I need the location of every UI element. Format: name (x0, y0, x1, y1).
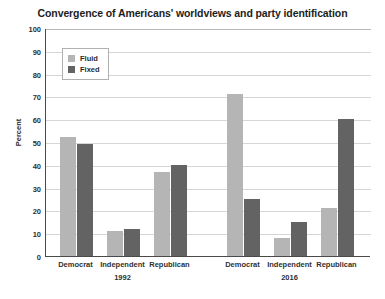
bar-fluid-4 (274, 238, 290, 256)
gridline (46, 29, 371, 30)
y-axis-tick-label: 100 (5, 25, 41, 34)
bar-fixed-2 (171, 165, 187, 256)
y-axis-tick-labels: 0102030405060708090100 (0, 29, 41, 257)
x-axis-category-label: Republican (142, 260, 197, 269)
legend-swatch-fluid (68, 55, 75, 62)
gridline (46, 143, 371, 144)
bar-fluid-1 (107, 231, 123, 256)
y-axis-tick-label: 30 (5, 184, 41, 193)
legend-item: Fixed (68, 64, 100, 75)
bar-fluid-0 (60, 137, 76, 256)
y-axis-tick-label: 60 (5, 116, 41, 125)
y-axis-tick-label: 10 (5, 230, 41, 239)
bar-fixed-5 (338, 119, 354, 256)
legend-item: Fluid (68, 53, 100, 64)
gridline (46, 189, 371, 190)
chart-legend: FluidFixed (62, 48, 109, 80)
y-axis-tick-label: 50 (5, 139, 41, 148)
bar-fluid-2 (154, 172, 170, 256)
x-axis-category-label: Republican (309, 260, 364, 269)
legend-swatch-fixed (68, 66, 75, 73)
bar-fixed-4 (291, 222, 307, 256)
chart-title: Convergence of Americans' worldviews and… (0, 7, 385, 19)
gridline (46, 120, 371, 121)
x-axis-labels: DemocratIndependentRepublicanDemocratInd… (45, 260, 370, 299)
bar-fixed-1 (124, 229, 140, 256)
bar-fluid-5 (321, 208, 337, 256)
chart-container: Convergence of Americans' worldviews and… (0, 0, 385, 299)
gridline (46, 97, 371, 98)
legend-label: Fixed (80, 65, 100, 74)
y-axis-tick-label: 40 (5, 161, 41, 170)
x-axis-group-label: 1992 (59, 273, 186, 282)
x-axis-group-label: 2016 (226, 273, 353, 282)
y-axis-tick-label: 90 (5, 47, 41, 56)
bar-fixed-3 (244, 199, 260, 256)
y-axis-tick-label: 20 (5, 207, 41, 216)
y-axis-tick-label: 0 (5, 253, 41, 262)
bar-fluid-3 (227, 94, 243, 256)
legend-label: Fluid (80, 54, 98, 63)
gridline (46, 166, 371, 167)
y-axis-tick-label: 70 (5, 93, 41, 102)
y-axis-tick-label: 80 (5, 70, 41, 79)
bar-fixed-0 (77, 144, 93, 256)
